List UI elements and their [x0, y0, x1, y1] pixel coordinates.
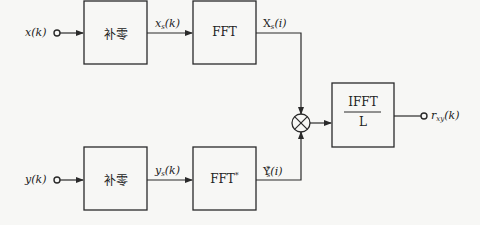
- ifft-numerator: IFFT: [332, 95, 394, 109]
- pad-x-label: 补零: [84, 25, 147, 42]
- signal-ys-k: ys(k): [155, 164, 180, 178]
- output-label: rxy(k): [431, 109, 459, 123]
- input-x-terminal-icon: [54, 30, 60, 36]
- block-diagram: x(k) y(k) 补零 补零 FFT FFT* IFFT L xs(k) ys…: [0, 0, 480, 225]
- ifft-denominator: L: [332, 115, 394, 129]
- fft-label: FFT: [193, 25, 256, 39]
- input-y-label: y(k): [25, 173, 46, 186]
- pad-y-label: 补零: [84, 171, 147, 188]
- signal-Ys-conj-i: Y*s(i): [263, 165, 282, 179]
- signal-xs-k: xs(k): [155, 17, 180, 31]
- fft-conj-label: FFT*: [193, 171, 256, 186]
- input-x-label: x(k): [25, 26, 46, 39]
- output-terminal-icon: [421, 113, 427, 119]
- signal-Xs-i: Xs(i): [263, 17, 287, 31]
- input-y-terminal-icon: [54, 177, 60, 183]
- arrow-fft-to-mult: [256, 33, 301, 114]
